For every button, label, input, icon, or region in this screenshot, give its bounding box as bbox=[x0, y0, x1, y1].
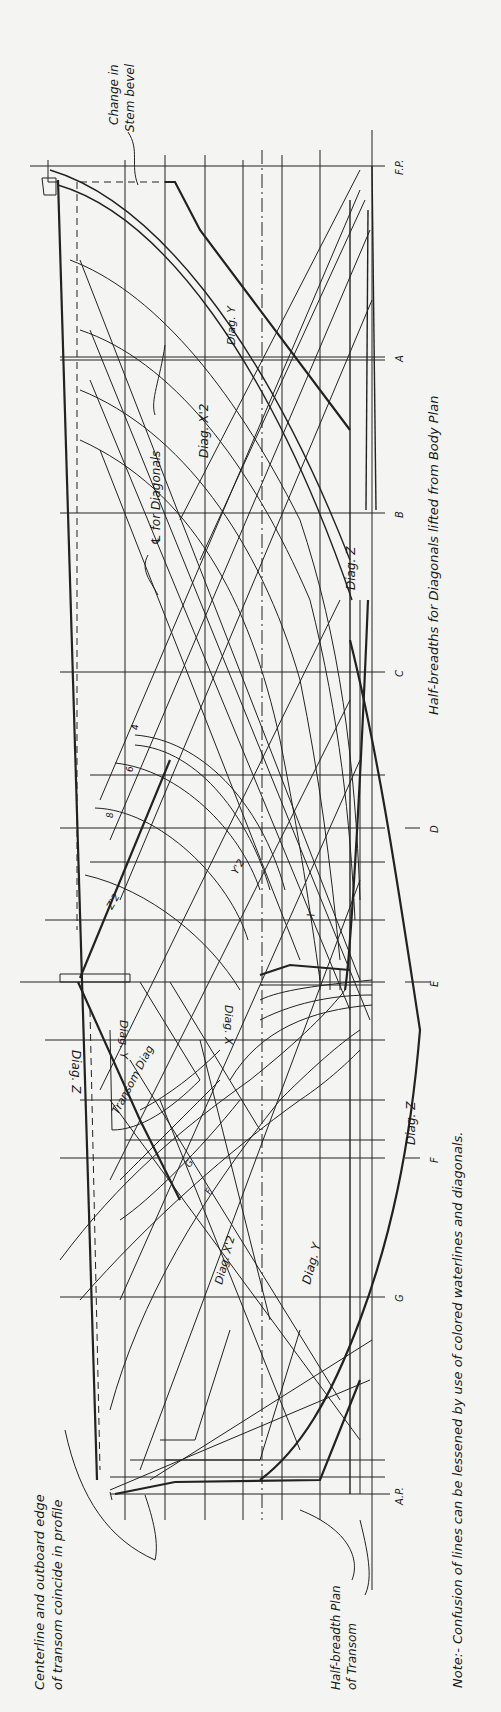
station-label-e: E bbox=[429, 980, 440, 987]
station-label-a: A bbox=[394, 355, 405, 363]
label-arc-6: 6 bbox=[125, 766, 135, 772]
label-diag-x2-top: Diag. X'2 bbox=[197, 404, 211, 458]
buttock-grid bbox=[125, 130, 372, 1590]
label-g-mark: G bbox=[183, 1158, 195, 1169]
label-diag-x2-low: Diag. X'2 bbox=[212, 1234, 237, 1285]
half-breadths-label: Half-breadths for Diagonals lifted from … bbox=[426, 395, 441, 715]
station-label-d: D bbox=[429, 825, 440, 833]
label-diag-z-mid: Diag. Z bbox=[69, 1050, 83, 1094]
label-diag-z-low: Diag. Z bbox=[404, 1101, 418, 1145]
half-breadth-transom-line1: Half-breadth Plan bbox=[329, 1585, 343, 1690]
station-label-b: B bbox=[394, 511, 405, 518]
half-breadth-transom-line2: of Transom bbox=[345, 1623, 359, 1690]
station-label-f: F bbox=[429, 1157, 440, 1163]
centerline-transom-line2: of transom coincide in profile bbox=[50, 1500, 65, 1690]
label-diag-y-low: Diag. Y bbox=[299, 1239, 324, 1285]
label-z2: Z'2 bbox=[104, 892, 122, 912]
station-label-fp: F.P. bbox=[394, 160, 405, 175]
body-plan-arcs bbox=[85, 735, 372, 1220]
stem-bevel-line2: Stem bevel bbox=[123, 63, 137, 132]
label-diag-y-top: Diag. Y bbox=[225, 305, 238, 345]
label-diag-z-top: Diag. Z bbox=[344, 546, 358, 590]
label-arc-8: 8 bbox=[105, 812, 115, 818]
cl-diagonals-label: ℄ for Diagonals bbox=[149, 451, 163, 545]
lines-drawing: F.P. A B C D E F G A.P. Diag. Y Diag. X'… bbox=[0, 0, 501, 1712]
label-diag-y-mid: Diag. Y bbox=[117, 1020, 130, 1060]
transom-diagonals bbox=[60, 760, 372, 1200]
station-labels: F.P. A B C D E F G A.P. bbox=[394, 160, 440, 1506]
stem-bevel-line1: Change in bbox=[107, 64, 121, 125]
label-arc-4: 4 bbox=[130, 724, 140, 730]
diagonal-curves bbox=[60, 170, 372, 1490]
label-y2: Y'2 bbox=[229, 857, 246, 876]
label-diag-x-mid: Diag. X bbox=[222, 1005, 235, 1045]
station-label-ap: A.P. bbox=[394, 1487, 405, 1506]
station-label-g: G bbox=[394, 1294, 405, 1302]
note-text: Note:- Confusion of lines can be lessene… bbox=[450, 1132, 465, 1688]
centerline-transom-line1: Centerline and outboard edge bbox=[32, 1494, 47, 1690]
station-label-c: C bbox=[394, 670, 405, 677]
